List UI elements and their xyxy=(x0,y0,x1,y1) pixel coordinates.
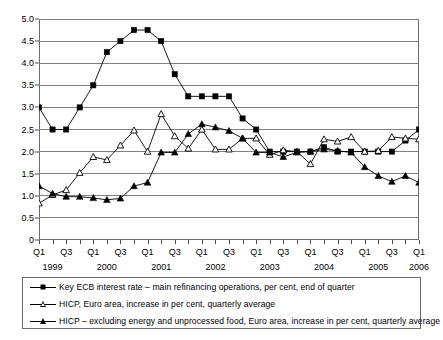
y-tick-label: 1.5 xyxy=(21,169,34,178)
x-tick-mark xyxy=(107,240,108,244)
x-tick-label: Q3 xyxy=(223,247,235,257)
x-tick-mark xyxy=(270,240,271,244)
data-point-marker xyxy=(389,149,394,154)
y-tick-label: 4.0 xyxy=(21,59,34,68)
x-tick-label: Q1 xyxy=(304,247,316,257)
y-tick-label: 3.5 xyxy=(21,81,34,90)
legend-marker-ecb-rate xyxy=(30,281,56,293)
x-year-label: 1999 xyxy=(43,262,63,272)
x-tick-label: Q3 xyxy=(277,247,289,257)
x-tick-mark xyxy=(283,240,284,244)
series-line xyxy=(39,124,419,200)
x-tick-mark xyxy=(324,240,325,244)
y-tick-label: 3.0 xyxy=(21,103,34,112)
x-tick-label: Q1 xyxy=(359,247,371,257)
x-tick-mark xyxy=(39,240,40,244)
x-tick-mark xyxy=(120,240,121,244)
data-point-marker xyxy=(144,179,151,185)
x-tick-mark xyxy=(161,240,162,244)
legend-item: Key ECB interest rate – main refinancing… xyxy=(23,279,420,295)
x-tick-mark xyxy=(297,240,298,244)
x-tick-mark xyxy=(175,240,176,244)
x-tick-label: Q3 xyxy=(332,247,344,257)
data-point-marker xyxy=(64,127,69,132)
x-year-label: 2005 xyxy=(368,262,388,272)
x-tick-label: Q1 xyxy=(142,247,154,257)
data-point-marker xyxy=(389,134,396,140)
data-point-marker xyxy=(131,27,136,32)
x-tick-mark xyxy=(405,240,406,244)
data-point-marker xyxy=(213,94,218,99)
data-point-marker xyxy=(91,83,96,88)
x-tick-mark xyxy=(93,240,94,244)
data-point-marker xyxy=(145,27,150,32)
x-year-label: 2006 xyxy=(409,262,429,272)
data-point-marker xyxy=(416,127,419,132)
x-tick-label: Q1 xyxy=(33,247,45,257)
x-tick-mark xyxy=(392,240,393,244)
y-tick-label: 0 xyxy=(29,236,34,245)
x-year-label: 2004 xyxy=(314,262,334,272)
chart-figure: 5.04.54.03.53.02.52.01.51.00.50 Q1Q3Q1Q3… xyxy=(0,0,443,340)
y-tick-label: 2.5 xyxy=(21,125,34,134)
x-tick-mark xyxy=(351,240,352,244)
chart-plot-area: 5.04.54.03.53.02.52.01.51.00.50 xyxy=(39,19,419,240)
data-point-marker xyxy=(39,105,42,110)
x-tick-label: Q1 xyxy=(87,247,99,257)
series-2 xyxy=(39,121,419,203)
data-point-marker xyxy=(240,116,245,121)
chart-series-layer xyxy=(39,19,419,240)
x-tick-mark xyxy=(256,240,257,244)
data-point-marker xyxy=(171,133,178,139)
legend-marker-hicp-core xyxy=(30,315,56,327)
x-tick-mark xyxy=(66,240,67,244)
x-tick-label: Q3 xyxy=(169,247,181,257)
data-point-marker xyxy=(158,111,165,117)
x-year-label: 2002 xyxy=(205,262,225,272)
x-year-label: 2000 xyxy=(97,262,117,272)
legend-marker-hicp xyxy=(30,298,56,310)
data-point-marker xyxy=(389,178,396,184)
x-tick-label: Q3 xyxy=(114,247,126,257)
x-tick-mark xyxy=(188,240,189,244)
x-tick-mark xyxy=(215,240,216,244)
data-point-marker xyxy=(90,154,97,160)
series-1 xyxy=(39,111,419,206)
x-year-label: 2001 xyxy=(151,262,171,272)
x-tick-mark xyxy=(365,240,366,244)
legend-label-hicp: HICP, Euro area, increase in per cent, q… xyxy=(59,299,275,309)
data-point-marker xyxy=(172,72,177,77)
data-point-marker xyxy=(49,190,56,196)
x-tick-mark xyxy=(134,240,135,244)
data-point-marker xyxy=(39,183,42,189)
x-tick-mark xyxy=(148,240,149,244)
x-tick-mark xyxy=(229,240,230,244)
x-tick-mark xyxy=(202,240,203,244)
x-tick-mark xyxy=(378,240,379,244)
legend-item: HICP – excluding energy and unprocessed … xyxy=(23,313,420,329)
data-point-marker xyxy=(254,127,259,132)
data-point-marker xyxy=(118,39,123,44)
x-tick-mark xyxy=(419,240,420,244)
y-tick-label: 5.0 xyxy=(21,15,34,24)
y-tick-label: 1.0 xyxy=(21,191,34,200)
data-point-marker xyxy=(104,50,109,55)
x-tick-mark xyxy=(338,240,339,244)
x-tick-label: Q1 xyxy=(413,247,425,257)
chart-legend: Key ECB interest rate – main refinancing… xyxy=(22,277,421,329)
y-tick-label: 0.5 xyxy=(21,213,34,222)
x-tick-label: Q1 xyxy=(250,247,262,257)
legend-item: HICP, Euro area, increase in per cent, q… xyxy=(23,296,420,312)
y-tick-label: 4.5 xyxy=(21,37,34,46)
data-point-marker xyxy=(159,39,164,44)
data-point-marker xyxy=(77,105,82,110)
data-point-marker xyxy=(39,200,42,206)
series-0 xyxy=(39,27,419,154)
x-tick-mark xyxy=(53,240,54,244)
x-tick-label: Q3 xyxy=(386,247,398,257)
legend-label-hicp-core: HICP – excluding energy and unprocessed … xyxy=(59,316,440,326)
data-point-marker xyxy=(185,131,192,137)
data-point-marker xyxy=(199,121,206,127)
data-point-marker xyxy=(186,94,191,99)
x-tick-label: Q3 xyxy=(60,247,72,257)
